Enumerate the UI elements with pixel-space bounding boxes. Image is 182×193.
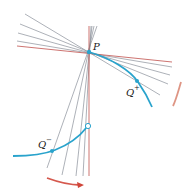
secant-tangent-diagram: P Q + Q − — [0, 0, 182, 193]
label-Q-plus: Q — [126, 87, 134, 98]
point-P — [87, 50, 91, 54]
rotation-arc-right — [173, 82, 181, 106]
label-Q-minus: Q — [38, 139, 46, 150]
secant-line — [25, 14, 160, 95]
point-Q-minus — [50, 149, 54, 153]
arrowhead-icon — [77, 182, 84, 188]
curve-right-branch — [89, 52, 152, 107]
label-Q-plus-sup: + — [134, 84, 140, 92]
rotation-arrow-bottom — [47, 178, 84, 188]
point-Q-plus — [135, 79, 139, 83]
open-circle-endpoint — [85, 123, 90, 128]
lower-secant-lines — [47, 26, 97, 176]
label-Q-minus-sup: − — [46, 136, 52, 144]
label-P: P — [92, 41, 100, 52]
